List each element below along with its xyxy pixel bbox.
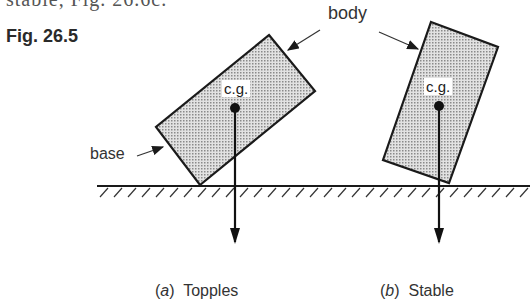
diagram-canvas [0, 0, 530, 308]
caption-b-letter: b [385, 282, 394, 299]
caption-b-text: Stable [408, 282, 453, 299]
caption-a-text: Topples [183, 282, 238, 299]
base-leader-arrow [137, 147, 163, 156]
body-label: body [328, 3, 367, 24]
caption-a-letter: a [160, 282, 169, 299]
body-a-leader-arrow [288, 30, 320, 50]
caption-b: (b) Stable [380, 282, 454, 300]
base-label: base [90, 145, 125, 163]
ground-line [97, 186, 530, 197]
cg-b-label: c.g. [424, 78, 452, 95]
body-b-leader-arrow [379, 32, 418, 49]
caption-a: (a) Topples [155, 282, 238, 300]
cg-a-label: c.g. [222, 80, 250, 97]
